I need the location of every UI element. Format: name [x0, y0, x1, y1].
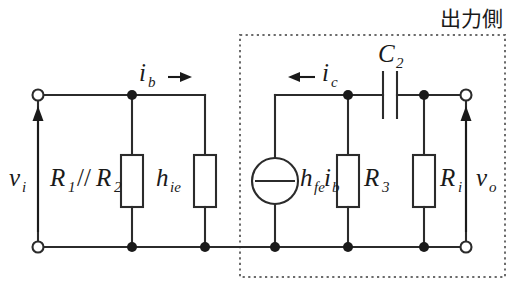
vo-label: v — [476, 164, 488, 191]
r1r2-resistor-body — [121, 155, 143, 207]
vi-label: v — [9, 164, 21, 191]
node-r1r2-bottom — [127, 242, 137, 252]
vo-arrow-head — [461, 106, 472, 121]
ri-label: R — [439, 164, 455, 191]
input-terminal-top — [33, 90, 44, 101]
ib-arrow-head — [180, 72, 192, 82]
r2-label: R — [95, 164, 111, 191]
output-side-title: 出力側 — [440, 7, 503, 31]
node-ri-bottom — [419, 242, 429, 252]
hfe-current-label: i — [324, 164, 331, 191]
r3-resistor-body — [337, 155, 359, 207]
node-output-top — [419, 90, 429, 100]
ic-arrow-head — [288, 72, 300, 82]
r1-label-subscript: 1 — [68, 179, 76, 195]
ib-label: i — [139, 59, 146, 86]
hie-resistor-body — [194, 155, 216, 207]
ic-label-subscript: c — [331, 74, 338, 90]
hie-label-subscript: ie — [170, 179, 181, 195]
vo-label-subscript: o — [489, 179, 497, 195]
vi-label-subscript: i — [22, 179, 26, 195]
c2-label: C — [378, 40, 395, 67]
parallel-operator-label: // — [77, 164, 91, 191]
hfe-label: h — [300, 164, 313, 191]
node-source-bottom — [270, 242, 280, 252]
node-hie-bottom — [200, 242, 210, 252]
r3-label: R — [363, 164, 379, 191]
circuit-diagram-figure: 出力側 v i R 1 // R 2 h ie i b i c h fe i b… — [0, 0, 524, 301]
input-terminal-bottom — [33, 242, 44, 253]
r1-label: R — [49, 164, 65, 191]
output-terminal-top — [461, 90, 472, 101]
ic-label: i — [322, 59, 329, 86]
node-collector-top — [343, 90, 353, 100]
circuit-schematic-canvas: 出力側 v i R 1 // R 2 h ie i b i c h fe i b… — [0, 0, 524, 301]
ri-resistor-body — [413, 155, 435, 207]
output-terminal-bottom — [461, 242, 472, 253]
hfe-current-label-subscript: b — [332, 179, 340, 195]
node-base-top — [127, 90, 137, 100]
c2-label-subscript: 2 — [396, 55, 404, 71]
r3-label-subscript: 3 — [381, 179, 390, 195]
r2-label-subscript: 2 — [114, 179, 122, 195]
node-r3-bottom — [343, 242, 353, 252]
ri-label-subscript: i — [458, 179, 462, 195]
hie-label: h — [156, 164, 169, 191]
ib-label-subscript: b — [148, 74, 156, 90]
vi-arrow-head — [33, 106, 44, 121]
